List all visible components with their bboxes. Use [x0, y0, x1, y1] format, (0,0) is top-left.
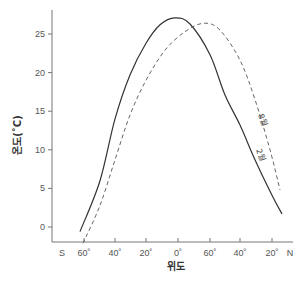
x-axis-title: 위도 [167, 260, 185, 272]
curve-label-february: 2월 [254, 147, 268, 162]
curve-august [83, 23, 280, 243]
y-tick-label: 10 [35, 145, 45, 155]
x-tick-label: N [287, 248, 294, 258]
x-tick-label: 40˚ [108, 248, 121, 258]
y-tick-label: 0 [40, 222, 45, 232]
x-tick-label: 60˚ [203, 248, 216, 258]
y-ticks: 0510152025 [35, 29, 52, 232]
x-tick-label: 0˚ [174, 248, 182, 258]
y-tick-label: 20 [35, 68, 45, 78]
x-tick-label: 40˚ [233, 248, 246, 258]
temperature-latitude-chart: 0510152025 S60˚40˚20˚0˚60˚40˚20˚N 8월 2월 … [0, 0, 304, 282]
y-tick-label: 15 [35, 106, 45, 116]
y-tick-label: 5 [40, 183, 45, 193]
x-tick-label: S [59, 248, 65, 258]
curve-february [80, 18, 282, 232]
y-axis-title: 온도(˚C) [12, 115, 23, 154]
x-tick-label: 60˚ [77, 248, 90, 258]
x-tick-label: 20˚ [265, 248, 278, 258]
x-tick-label: 20˚ [139, 248, 152, 258]
y-tick-label: 25 [35, 29, 45, 39]
curve-label-august: 8월 [256, 112, 270, 127]
x-ticks: S60˚40˚20˚0˚60˚40˚20˚N [59, 238, 293, 258]
